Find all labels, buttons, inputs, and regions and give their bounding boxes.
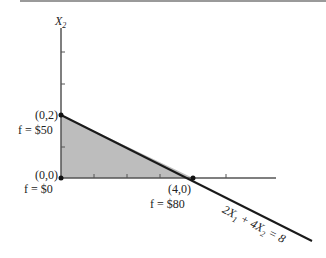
objective-label-4-0: f = $80 <box>150 198 185 210</box>
point-label-0-0: (0,0) <box>35 169 58 181</box>
vertex-4-0 <box>191 176 196 181</box>
vertex-0-2 <box>59 113 64 118</box>
point-label-0-2: (0,2) <box>35 109 58 121</box>
vertex-0-0 <box>59 176 64 181</box>
y-axis-label: X2 <box>55 15 66 32</box>
objective-label-0-2: f = $50 <box>18 124 53 136</box>
objective-label-0-0: f = $0 <box>24 183 53 195</box>
point-label-4-0: (4,0) <box>168 183 191 195</box>
